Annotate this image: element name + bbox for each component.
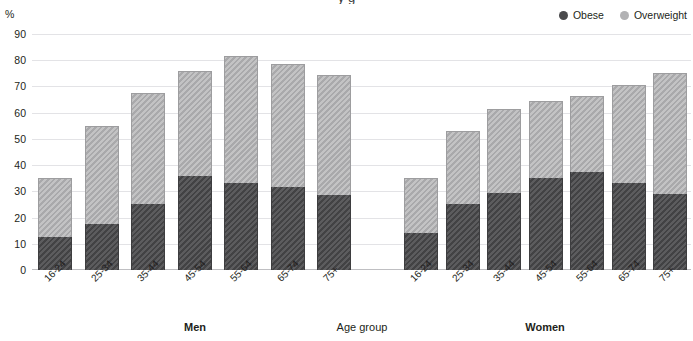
bar-women-45-54[interactable] xyxy=(529,101,563,270)
segment-overweight xyxy=(131,93,165,204)
y-tick-40: 40 xyxy=(0,159,26,171)
segment-overweight xyxy=(85,126,119,224)
y-tick-20: 20 xyxy=(0,212,26,224)
bar-men-16-24[interactable] xyxy=(38,178,72,270)
bar-men-75+[interactable] xyxy=(317,75,351,270)
chart-legend: ObeseOverweight xyxy=(559,9,687,21)
bar-men-45-54[interactable] xyxy=(178,71,212,270)
filled-circle-icon xyxy=(559,11,568,20)
bar-men-35-44[interactable] xyxy=(131,93,165,270)
segment-obese xyxy=(131,204,165,270)
bar-men-55-64[interactable] xyxy=(224,56,258,270)
gridline-80 xyxy=(32,60,691,61)
segment-obese xyxy=(653,194,687,270)
segment-obese xyxy=(487,193,521,270)
bar-women-25-34[interactable] xyxy=(446,131,480,270)
segment-overweight xyxy=(446,131,480,204)
y-tick-50: 50 xyxy=(0,133,26,145)
bar-women-35-44[interactable] xyxy=(487,109,521,270)
bar-women-16-24[interactable] xyxy=(404,178,438,270)
y-tick-30: 30 xyxy=(0,185,26,197)
y-tick-80: 80 xyxy=(0,54,26,66)
segment-overweight xyxy=(529,101,563,178)
y-tick-60: 60 xyxy=(0,107,26,119)
bar-men-65-74[interactable] xyxy=(271,64,305,270)
segment-obese xyxy=(446,204,480,270)
bar-women-75+[interactable] xyxy=(653,73,687,270)
segment-obese xyxy=(529,178,563,270)
y-tick-70: 70 xyxy=(0,80,26,92)
segment-obese xyxy=(317,195,351,270)
segment-overweight xyxy=(570,96,604,172)
segment-overweight xyxy=(317,75,351,196)
segment-overweight xyxy=(404,178,438,233)
y-axis-unit-label: % xyxy=(5,8,14,20)
bar-women-65-74[interactable] xyxy=(612,85,646,270)
y-tick-0: 0 xyxy=(0,264,26,276)
bar-women-55-64[interactable] xyxy=(570,96,604,270)
y-tick-10: 10 xyxy=(0,238,26,250)
segment-obese xyxy=(612,183,646,270)
filled-circle-icon xyxy=(620,11,629,20)
segment-overweight xyxy=(653,73,687,194)
segment-overweight xyxy=(178,71,212,176)
segment-overweight xyxy=(224,56,258,183)
gridline-90 xyxy=(32,34,691,35)
y-tick-90: 90 xyxy=(0,28,26,40)
chart-root: y g ObeseOverweight % 010203040506070809… xyxy=(0,0,693,341)
gridline-70 xyxy=(32,86,691,87)
cropped-title: y g xyxy=(0,0,693,4)
plot-area xyxy=(32,34,691,270)
segment-obese xyxy=(224,183,258,270)
legend-item-overweight[interactable]: Overweight xyxy=(620,9,687,21)
bar-men-25-34[interactable] xyxy=(85,126,119,270)
segment-overweight xyxy=(487,109,521,193)
group-caption-women: Women xyxy=(199,321,693,333)
legend-item-obese[interactable]: Obese xyxy=(559,9,604,21)
segment-overweight xyxy=(271,64,305,187)
legend-label: Obese xyxy=(573,9,604,21)
segment-overweight xyxy=(38,178,72,237)
legend-label: Overweight xyxy=(634,9,687,21)
segment-obese xyxy=(271,187,305,270)
segment-overweight xyxy=(612,85,646,183)
segment-obese xyxy=(178,176,212,270)
segment-obese xyxy=(570,172,604,270)
